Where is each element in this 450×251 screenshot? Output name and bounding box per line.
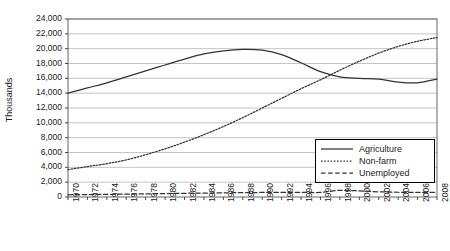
series-line-unemployed — [68, 190, 437, 195]
legend-label: Non-farm — [359, 156, 397, 166]
legend-line-swatch-solid — [320, 144, 354, 154]
legend-item[interactable]: Unemployed — [320, 167, 429, 179]
legend-line-swatch-dotted — [320, 156, 354, 166]
series-line-agriculture — [68, 49, 437, 93]
legend-label: Agriculture — [359, 144, 402, 154]
chart-legend: AgricultureNon-farmUnemployed — [315, 139, 435, 183]
legend-item[interactable]: Non-farm — [320, 155, 429, 167]
legend-label: Unemployed — [359, 168, 410, 178]
legend-item[interactable]: Agriculture — [320, 143, 429, 155]
legend-line-swatch-dashed — [320, 168, 354, 178]
